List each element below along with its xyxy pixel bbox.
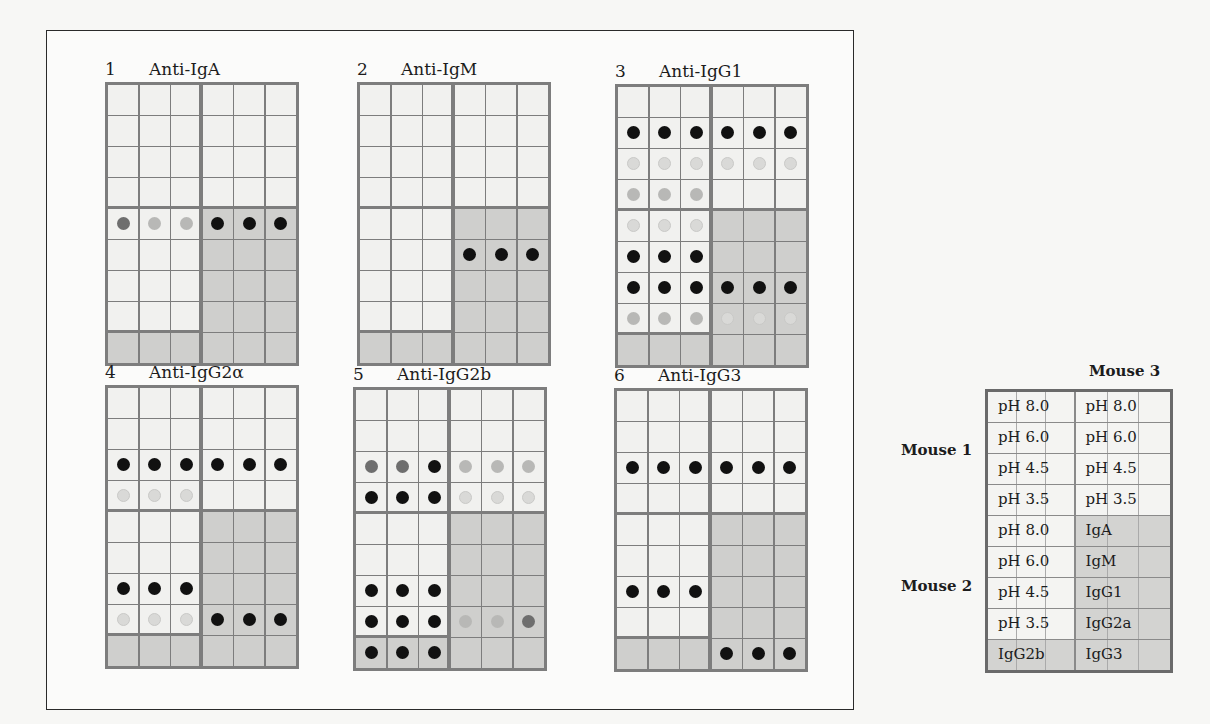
- blot-cell: [775, 391, 805, 421]
- blot-dot-strong: [657, 461, 670, 474]
- blot-cell: [140, 178, 170, 208]
- blot-cell: [203, 333, 233, 363]
- blot-cell: [392, 333, 422, 363]
- blot-cell: [712, 546, 742, 576]
- blot-dot-strong: [784, 281, 797, 294]
- blot-cell: [171, 450, 201, 480]
- blot-cell: [140, 481, 170, 511]
- blot-dot-weak: [522, 460, 535, 473]
- key-cell: pH 8.0: [988, 516, 1074, 546]
- blot-dot-strong: [396, 646, 409, 659]
- blot-cell: [360, 271, 390, 301]
- blot-cell: [649, 639, 679, 669]
- key-cell-label: IgG2a: [1086, 614, 1132, 632]
- blot-cell: [618, 87, 648, 117]
- blot-cell: [423, 240, 453, 270]
- blot-cell: [140, 147, 170, 177]
- blot-cell: [649, 484, 679, 514]
- blot-cell: [776, 304, 806, 334]
- blot-dot-faint: [117, 489, 130, 502]
- blot-dot-strong: [243, 217, 256, 230]
- key-cell: IgG2a: [1076, 609, 1170, 639]
- blot-cell: [451, 638, 481, 668]
- blot-cell: [356, 514, 386, 544]
- key-grid: pH 8.0pH 8.0pH 6.0pH 6.0pH 4.5pH 4.5pH 3…: [985, 389, 1173, 673]
- blot-cell: [203, 178, 233, 208]
- blot-cell: [108, 178, 138, 208]
- blot-cell: [713, 211, 743, 241]
- blot-cell: [518, 116, 548, 146]
- blot-cell: [712, 639, 742, 669]
- blot-cell: [234, 574, 264, 604]
- blot-cell: [775, 546, 805, 576]
- blot-cell: [234, 450, 264, 480]
- blot-cell: [713, 335, 743, 365]
- blot-cell: [681, 211, 711, 241]
- blot-dot-strong: [243, 613, 256, 626]
- blot-cell: [680, 515, 710, 545]
- blot-cell: [234, 419, 264, 449]
- blot-cell: [776, 242, 806, 272]
- blot-cell: [108, 116, 138, 146]
- blot-cell: [140, 636, 170, 666]
- blot-cell: [419, 638, 449, 668]
- blot-cell: [681, 335, 711, 365]
- blot-cell: [360, 116, 390, 146]
- blot-dot-strong: [180, 458, 193, 471]
- blot-cell: [743, 546, 773, 576]
- blot-cell: [392, 240, 422, 270]
- blot-cell: [140, 419, 170, 449]
- blot-dot-strong: [753, 126, 766, 139]
- blot-cell: [140, 209, 170, 239]
- blot-cell: [650, 273, 680, 303]
- blot-cell: [388, 576, 418, 606]
- blot-cell: [234, 636, 264, 666]
- blot-cell: [455, 240, 485, 270]
- blot-cell: [455, 209, 485, 239]
- blot-cell: [140, 116, 170, 146]
- blot-cell: [649, 453, 679, 483]
- blot-cell: [360, 302, 390, 332]
- blot-cell: [744, 149, 774, 179]
- blot-cell: [203, 116, 233, 146]
- blot-cell: [203, 481, 233, 511]
- blot-dot-strong: [428, 491, 441, 504]
- blot-dot-faint: [784, 312, 797, 325]
- blot-cell: [392, 302, 422, 332]
- blot-cell: [388, 390, 418, 420]
- blot-cell: [234, 178, 264, 208]
- blot-dot-weak: [459, 615, 472, 628]
- blot-cell: [234, 333, 264, 363]
- blot-cell: [680, 391, 710, 421]
- blot-cell: [171, 85, 201, 115]
- blot-dot-faint: [180, 613, 193, 626]
- key-cell-label: pH 8.0: [998, 521, 1049, 539]
- key-cell: pH 8.0: [1076, 392, 1170, 422]
- blot-cell: [776, 149, 806, 179]
- blot-dot-faint: [180, 489, 193, 502]
- blot-cell: [514, 576, 544, 606]
- blot-cell: [140, 388, 170, 418]
- blot-cell: [266, 481, 296, 511]
- blot-cell: [360, 85, 390, 115]
- blot-cell: [775, 608, 805, 638]
- blot-cell: [266, 209, 296, 239]
- blot-cell: [203, 240, 233, 270]
- blot-cell: [423, 302, 453, 332]
- panel-title: 1Anti-IgA: [105, 58, 325, 80]
- blot-dot-strong: [783, 461, 796, 474]
- blot-grid: [357, 82, 551, 366]
- panel-antibody-label: Anti-IgG2b: [397, 364, 491, 384]
- blot-dot-weak: [491, 615, 504, 628]
- blot-cell: [234, 302, 264, 332]
- blot-grid: [353, 387, 547, 671]
- blot-dot-faint: [721, 157, 734, 170]
- blot-cell: [775, 453, 805, 483]
- blot-cell: [266, 333, 296, 363]
- blot-cell: [617, 484, 647, 514]
- key-cell-label: pH 4.5: [1086, 459, 1137, 477]
- blot-cell: [681, 149, 711, 179]
- blot-cell: [486, 85, 516, 115]
- blot-cell: [618, 304, 648, 334]
- blot-cell: [743, 577, 773, 607]
